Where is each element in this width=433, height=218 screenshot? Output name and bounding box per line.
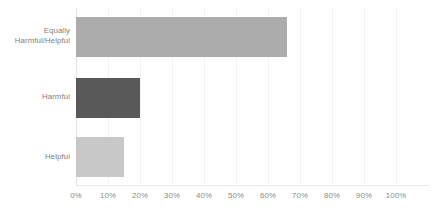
bar: [76, 17, 287, 57]
bar: [76, 137, 124, 177]
value-axis-tick-label: 90%: [356, 191, 372, 201]
gridline: [364, 8, 365, 185]
category-label-line-1: Equally: [0, 26, 70, 36]
value-axis-tick-label: 40%: [196, 191, 212, 201]
category-label-equally-harmful-helpful: Equally Harmful/Helpful: [0, 26, 70, 45]
category-label-helpful: Helpful: [0, 152, 70, 162]
category-label-line-1: Helpful: [0, 152, 70, 162]
category-axis: Equally Harmful/Helpful Harmful Helpful: [0, 0, 70, 185]
value-axis-tick-label: 20%: [132, 191, 148, 201]
plot-area: [76, 8, 396, 185]
category-label-harmful: Harmful: [0, 92, 70, 102]
bar-chart: Equally Harmful/Helpful Harmful Helpful …: [0, 0, 433, 218]
value-axis-tick-label: 100%: [386, 191, 406, 201]
gridline: [396, 8, 397, 185]
category-label-line-1: Harmful: [0, 92, 70, 102]
value-axis-tick-label: 80%: [324, 191, 340, 201]
gridline: [300, 8, 301, 185]
value-axis-tick-label: 0%: [70, 191, 81, 201]
value-axis-tick-label: 30%: [164, 191, 180, 201]
value-axis-tick-label: 50%: [228, 191, 244, 201]
value-axis-tick-labels: 0%10%20%30%40%50%60%70%80%90%100%: [0, 191, 433, 211]
value-axis-tick-label: 10%: [100, 191, 116, 201]
category-axis-line: [76, 185, 429, 186]
value-axis-tick-label: 70%: [292, 191, 308, 201]
category-label-line-2: Harmful/Helpful: [0, 36, 70, 46]
value-axis-tick-label: 60%: [260, 191, 276, 201]
gridline: [332, 8, 333, 185]
bar: [76, 78, 140, 118]
